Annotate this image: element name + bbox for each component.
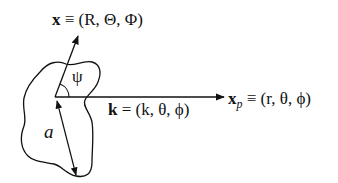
size-a-label: a [44,122,54,141]
x-coords: (R, Θ, Φ) [79,10,143,29]
psi-angle-arc [60,84,69,97]
scattering-diagram: x ≡ (R, Θ, Φ) ψ a k = (k, θ, ϕ) xp ≡ (r,… [0,0,338,183]
k-coords: (k, θ, ϕ) [136,100,190,119]
size-a-arrow [57,101,76,175]
equiv-sign: ≡ [247,89,257,108]
xp-coords: (r, θ, ϕ) [261,89,311,108]
x-symbol: x [52,10,61,29]
xp-subscript: p [237,97,243,111]
scatterer-outline [21,62,100,177]
xp-symbol: x [228,89,237,108]
equiv-sign: ≡ [65,10,75,29]
psi-label: ψ [72,68,83,85]
k-vector-label: k = (k, θ, ϕ) [108,101,189,118]
equals-sign: = [122,100,132,119]
k-symbol: k [108,100,117,119]
x-vector-label: x ≡ (R, Θ, Φ) [52,11,143,28]
xp-vector-label: xp ≡ (r, θ, ϕ) [228,90,311,110]
